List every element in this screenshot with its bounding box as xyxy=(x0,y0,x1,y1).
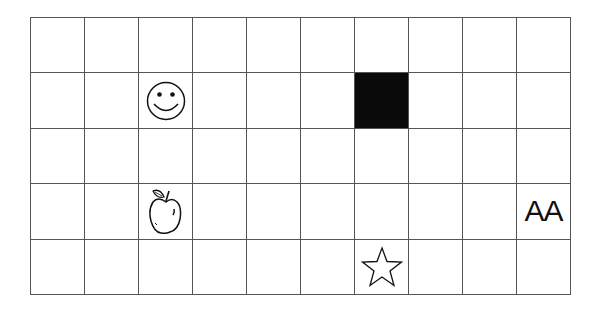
grid-cell-r1-c5 xyxy=(300,72,354,127)
grid-cell-r0-c4 xyxy=(246,17,300,72)
grid-cell-r4-c5 xyxy=(300,239,354,294)
grid-cell-r0-c5 xyxy=(300,17,354,72)
grid-cell-r0-c7 xyxy=(408,17,462,72)
grid-cell-r3-c2 xyxy=(138,183,192,238)
grid-cell-r4-c9 xyxy=(516,239,570,294)
grid-cell-r4-c4 xyxy=(246,239,300,294)
grid-cell-r0-c9 xyxy=(516,17,570,72)
grid-cell-r0-c8 xyxy=(462,17,516,72)
grid-cell-r2-c0 xyxy=(30,128,84,183)
grid-cell-r4-c8 xyxy=(462,239,516,294)
grid-cell-r3-c5 xyxy=(300,183,354,238)
grid-cell-r3-c8 xyxy=(462,183,516,238)
cell-text-label: AA xyxy=(524,194,562,228)
grid-cell-r4-c2 xyxy=(138,239,192,294)
grid-cell-r3-c0 xyxy=(30,183,84,238)
grid-cell-r2-c8 xyxy=(462,128,516,183)
grid-cell-r0-c3 xyxy=(192,17,246,72)
grid-cell-r2-c5 xyxy=(300,128,354,183)
grid-cell-r0-c2 xyxy=(138,17,192,72)
grid-cell-r1-c9 xyxy=(516,72,570,127)
grid-cell-r4-c3 xyxy=(192,239,246,294)
grid-cell-r1-c8 xyxy=(462,72,516,127)
grid-board: AA xyxy=(30,17,571,295)
star-icon xyxy=(360,246,404,288)
grid-cell-r3-c9: AA xyxy=(516,183,570,238)
grid-cell-r2-c1 xyxy=(84,128,138,183)
grid-cell-r0-c6 xyxy=(354,17,408,72)
grid-cell-r1-c1 xyxy=(84,72,138,127)
grid-cell-r0-c1 xyxy=(84,17,138,72)
grid-cell-r3-c1 xyxy=(84,183,138,238)
grid-cell-r4-c0 xyxy=(30,239,84,294)
smiley-face-icon xyxy=(146,80,186,122)
grid-cell-r2-c7 xyxy=(408,128,462,183)
grid-cell-r3-c7 xyxy=(408,183,462,238)
grid-cell-r2-c3 xyxy=(192,128,246,183)
grid-cell-r4-c6 xyxy=(354,239,408,294)
grid-cell-r2-c9 xyxy=(516,128,570,183)
grid-cell-r2-c6 xyxy=(354,128,408,183)
grid-cell-r3-c3 xyxy=(192,183,246,238)
filled-black-cell xyxy=(354,72,408,127)
grid-cell-r1-c3 xyxy=(192,72,246,127)
apple-icon xyxy=(148,185,184,237)
grid-cell-r4-c7 xyxy=(408,239,462,294)
grid-cell-r2-c4 xyxy=(246,128,300,183)
grid-cell-r4-c1 xyxy=(84,239,138,294)
grid-cell-r1-c2 xyxy=(138,72,192,127)
grid-cell-r0-c0 xyxy=(30,17,84,72)
grid-cell-r3-c6 xyxy=(354,183,408,238)
grid-cell-r1-c4 xyxy=(246,72,300,127)
grid-cell-r3-c4 xyxy=(246,183,300,238)
grid-cell-r1-c7 xyxy=(408,72,462,127)
grid-cell-r2-c2 xyxy=(138,128,192,183)
grid-cell-r1-c0 xyxy=(30,72,84,127)
